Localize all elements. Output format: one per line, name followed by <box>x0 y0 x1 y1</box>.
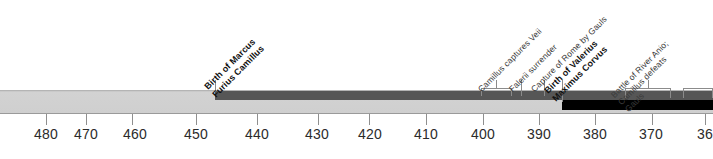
timeline-chart: 480 470 460 450 440 430 420 410 400 390 … <box>0 0 713 159</box>
axis-tick-label: 460 <box>123 126 147 142</box>
event-bracket-secondary <box>683 88 713 98</box>
axis-tick-label: 470 <box>74 126 98 142</box>
axis-tick-label: 380 <box>583 126 607 142</box>
axis-tick-label: 36 <box>697 126 713 142</box>
axis-tick <box>595 114 596 125</box>
axis-tick-label: 430 <box>305 126 329 142</box>
axis-line <box>0 113 713 114</box>
axis-tick <box>318 114 319 125</box>
axis-tick <box>257 114 258 125</box>
event-leader-camillus-captures-veii <box>496 80 497 89</box>
axis-tick-label: 480 <box>34 126 58 142</box>
axis-tick <box>369 114 370 125</box>
axis-tick <box>652 114 653 125</box>
axis-tick <box>86 114 87 125</box>
axis-tick-label: 450 <box>184 126 208 142</box>
axis-tick <box>46 114 47 125</box>
axis-tick-label: 370 <box>639 126 663 142</box>
axis-tick-label: 410 <box>414 126 438 142</box>
axis-tick <box>426 114 427 125</box>
axis-tick-label: 440 <box>245 126 269 142</box>
axis-tick <box>132 114 133 125</box>
axis-tick <box>705 114 706 125</box>
axis-tick <box>483 114 484 125</box>
axis-tick-label: 390 <box>527 126 551 142</box>
axis-tick-label: 420 <box>358 126 382 142</box>
axis-tick-label: 400 <box>471 126 495 142</box>
axis-tick <box>196 114 197 125</box>
axis-tick <box>539 114 540 125</box>
